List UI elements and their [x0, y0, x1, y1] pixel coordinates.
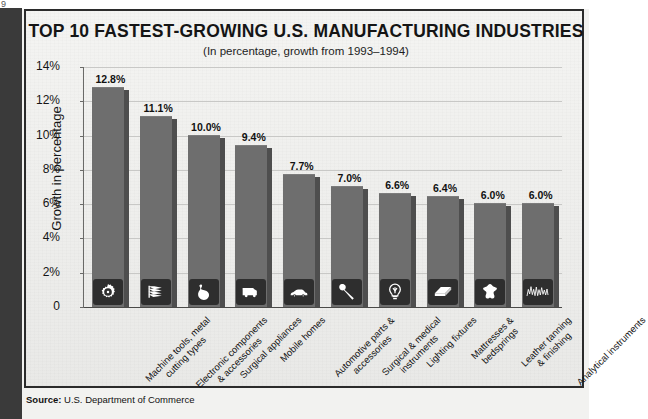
mattress-icon [428, 279, 458, 305]
y-axis-tick-mark [80, 67, 84, 68]
chart-subtitle: (In percentage, growth from 1993–1994) [26, 45, 586, 57]
bar-group[interactable]: 6.0% [474, 67, 511, 307]
bar-depth-side [363, 189, 368, 307]
bar-value-label: 11.1% [128, 102, 188, 114]
bar-value-label: 6.0% [511, 189, 571, 201]
bar-group[interactable]: 7.7% [283, 67, 320, 307]
y-axis-tick-mark [80, 170, 84, 171]
source-note: Source: U.S. Department of Commerce [26, 394, 194, 405]
surgical-mallet-icon [332, 279, 362, 305]
chart-title: TOP 10 FASTEST-GROWING U.S. MANUFACTURIN… [26, 21, 586, 42]
chart-panel: TOP 10 FASTEST-GROWING U.S. MANUFACTURIN… [24, 9, 584, 388]
bar-value-label: 9.4% [224, 131, 284, 143]
bar-group[interactable]: 6.0% [522, 67, 559, 307]
bar-depth-side [506, 206, 511, 307]
bar-group[interactable]: 10.0% [188, 67, 225, 307]
x-axis-category-label: Analytical instruments [575, 315, 648, 388]
bar-value-label: 12.8% [80, 73, 140, 85]
circuit-boards-icon [141, 279, 171, 305]
waveform-icon [523, 279, 553, 305]
plot-area: 14%12%10%8%6%4%2%012.8%Machine tools, me… [84, 67, 562, 307]
leather-hide-icon [475, 279, 505, 305]
x-axis-category-label: Leather tanning& finishing [520, 315, 582, 377]
bar-depth-side [315, 177, 320, 307]
bar-group[interactable]: 11.1% [140, 67, 177, 307]
mobile-home-icon [236, 279, 266, 305]
y-axis-tick-label: 12% [14, 93, 60, 107]
bar-group[interactable]: 12.8% [92, 67, 129, 307]
y-axis-tick-label: 4% [14, 230, 60, 244]
bar-depth-side [172, 119, 177, 307]
y-axis-tick-mark [80, 238, 84, 239]
automobile-icon [284, 279, 314, 305]
bar[interactable] [92, 87, 124, 307]
y-axis-tick-label: 6% [14, 196, 60, 210]
y-axis-tick-mark [80, 307, 84, 308]
x-axis-line [83, 307, 562, 308]
light-bulb-icon [380, 279, 410, 305]
y-axis-tick-mark [80, 273, 84, 274]
y-axis-tick-label: 8% [14, 162, 60, 176]
bar-depth-side [220, 138, 225, 307]
bar-depth-side [124, 90, 129, 307]
y-axis-tick-mark [80, 204, 84, 205]
y-axis-tick-mark [80, 136, 84, 137]
gear-icon [93, 279, 123, 305]
bar-depth-side [554, 206, 559, 307]
source-label: Source: [26, 394, 61, 405]
y-axis-tick-label: 0 [14, 299, 60, 313]
surgical-glove-icon [189, 279, 219, 305]
y-axis-tick-label: 10% [14, 128, 60, 142]
bar-value-label: 7.7% [272, 160, 332, 172]
y-axis-tick-label: 14% [14, 59, 60, 73]
page-top-margin [0, 0, 589, 9]
page-number: 9 [1, 0, 13, 9]
bar-group[interactable]: 9.4% [235, 67, 272, 307]
y-axis-tick-label: 2% [14, 265, 60, 279]
bar-depth-side [459, 199, 464, 307]
bar-group[interactable]: 7.0% [331, 67, 368, 307]
source-text: U.S. Department of Commerce [64, 394, 194, 405]
bar-depth-side [411, 196, 416, 307]
bar-group[interactable]: 6.4% [427, 67, 464, 307]
y-axis-tick-mark [80, 101, 84, 102]
bar-group[interactable]: 6.6% [379, 67, 416, 307]
